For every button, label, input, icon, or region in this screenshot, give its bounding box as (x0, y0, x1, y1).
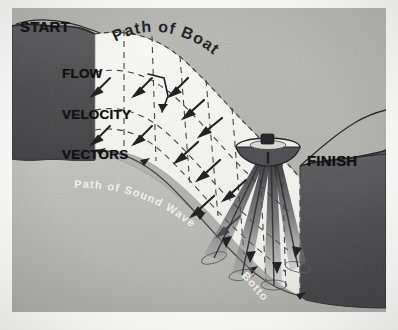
start-label: START (20, 18, 70, 35)
figure-canvas: Path of Boat Path of Sound Wave Bottom (0, 0, 398, 330)
flow-velocity-vectors-label: FLOW VELOCITY VECTORS (62, 40, 131, 189)
diagram-stage: Path of Boat Path of Sound Wave Bottom (0, 0, 398, 330)
finish-label: FINISH (307, 152, 357, 169)
flow-label-line-1: FLOW (62, 67, 131, 81)
flow-label-line-2: VELOCITY (62, 108, 131, 122)
flow-label-line-3: VECTORS (62, 148, 131, 162)
